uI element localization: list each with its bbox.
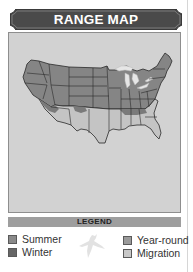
legend-label-summer: Summer xyxy=(22,233,62,245)
migration-swatch xyxy=(123,249,132,258)
legend-label-year-round: Year-round xyxy=(137,234,189,246)
legend-item-summer: Summer xyxy=(8,233,62,245)
us-summer-range xyxy=(23,53,172,109)
winter-swatch xyxy=(8,248,17,257)
legend-item-year-round: Year-round xyxy=(123,234,189,246)
legend-label-winter: Winter xyxy=(22,246,52,258)
legend-item-migration: Migration xyxy=(123,247,180,259)
bird-silhouette-icon xyxy=(78,233,106,259)
legend-label-migration: Migration xyxy=(137,247,180,259)
range-map-banner: RANGE MAP xyxy=(10,9,182,30)
legend-header: LEGEND xyxy=(8,217,181,227)
us-map-icon xyxy=(9,33,181,213)
right-divider-line xyxy=(187,0,188,272)
legend-item-winter: Winter xyxy=(8,246,52,258)
page-title: RANGE MAP xyxy=(10,9,182,30)
summer-swatch xyxy=(8,235,17,244)
range-map xyxy=(8,32,181,213)
year-round-swatch xyxy=(123,236,132,245)
legend-title: LEGEND xyxy=(8,217,181,227)
